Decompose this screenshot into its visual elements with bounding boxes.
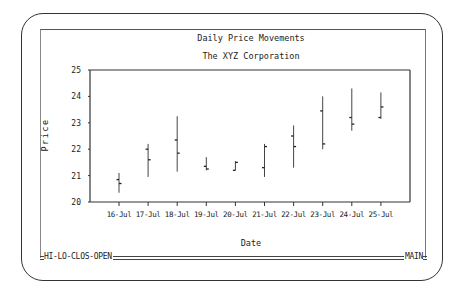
- status-bar: HI-LO-CLOS-OPEN MAIN: [40, 252, 427, 264]
- status-menu-label: MAIN: [404, 252, 423, 261]
- y-tick-label: 23: [71, 119, 81, 128]
- x-tick-label: 18-Jul: [165, 210, 190, 219]
- x-tick-label: 16-Jul: [107, 210, 132, 219]
- x-tick-label: 22-Jul: [281, 210, 306, 219]
- y-tick-label: 24: [71, 92, 81, 101]
- ohlc-bar: [262, 144, 267, 177]
- ohlc-bar: [117, 173, 122, 193]
- x-tick-label: 23-Jul: [310, 210, 335, 219]
- ohlc-bar: [175, 116, 180, 171]
- ohlc-bar: [233, 161, 238, 170]
- x-tick-label: 20-Jul: [223, 210, 248, 219]
- y-tick-label: 25: [71, 66, 81, 75]
- x-tick-label: 19-Jul: [194, 210, 219, 219]
- x-tick-label: 25-Jul: [369, 210, 394, 219]
- ohlc-bar: [204, 157, 209, 170]
- y-tick-label: 20: [71, 198, 81, 207]
- chart-title: Daily Price Movements: [197, 33, 304, 43]
- ohlc-bar: [349, 88, 354, 130]
- chart-axes: 20212223242516-Jul17-Jul18-Jul19-Jul20-J…: [71, 66, 410, 219]
- y-tick-label: 21: [71, 172, 81, 181]
- chart-subtitle: The XYZ Corporation: [202, 51, 299, 61]
- ohlc-chart: Daily Price Movements The XYZ Corporatio…: [0, 0, 458, 295]
- ohlc-bar: [320, 96, 325, 149]
- y-axis-label: Price: [40, 118, 50, 151]
- ohlc-bar: [146, 144, 151, 177]
- y-tick-label: 22: [71, 145, 81, 154]
- x-tick-label: 21-Jul: [252, 210, 277, 219]
- x-tick-label: 17-Jul: [136, 210, 161, 219]
- x-tick-label: 24-Jul: [339, 210, 364, 219]
- ohlc-bar: [378, 92, 383, 118]
- status-mode-label: HI-LO-CLOS-OPEN: [44, 252, 113, 261]
- ohlc-bars: [117, 88, 384, 192]
- ohlc-bar: [291, 125, 296, 167]
- x-axis-label: Date: [241, 238, 261, 248]
